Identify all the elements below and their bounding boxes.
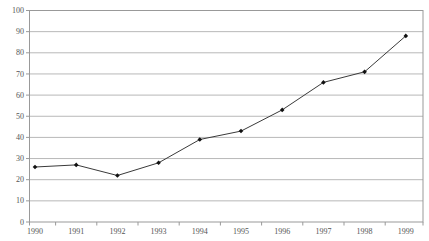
x-axis-label-1993: 1993 [151, 227, 167, 236]
x-axis-label-1996: 1996 [274, 227, 290, 236]
x-axis-label-1994: 1994 [192, 227, 208, 236]
x-axis-label-1992: 1992 [109, 227, 125, 236]
y-axis-label-90: 90 [16, 27, 24, 36]
data-point-marker-1995 [239, 129, 244, 134]
line-chart: 0102030405060708090100199019911992199319… [0, 0, 429, 241]
y-axis-label-70: 70 [16, 70, 24, 79]
y-axis-label-40: 40 [16, 133, 24, 142]
y-axis-label-30: 30 [16, 154, 24, 163]
x-axis-label-1995: 1995 [233, 227, 249, 236]
y-axis-label-100: 100 [12, 6, 24, 15]
data-point-marker-1991 [74, 163, 79, 168]
data-point-marker-1994 [198, 137, 203, 142]
data-point-marker-1992 [115, 173, 120, 178]
data-point-marker-1993 [156, 160, 161, 165]
y-axis-label-60: 60 [16, 91, 24, 100]
series-line-series-1 [35, 36, 406, 176]
x-axis-label-1990: 1990 [27, 227, 43, 236]
data-point-marker-1990 [33, 165, 38, 170]
y-axis-label-20: 20 [16, 175, 24, 184]
y-axis-label-0: 0 [20, 218, 24, 227]
y-axis-label-80: 80 [16, 48, 24, 57]
y-axis-label-10: 10 [16, 196, 24, 205]
x-axis-label-1998: 1998 [357, 227, 373, 236]
x-axis-label-1991: 1991 [68, 227, 84, 236]
x-axis-label-1997: 1997 [315, 227, 331, 236]
chart-container: 0102030405060708090100199019911992199319… [0, 0, 429, 241]
x-axis-label-1999: 1999 [398, 227, 414, 236]
y-axis-label-50: 50 [16, 112, 24, 121]
